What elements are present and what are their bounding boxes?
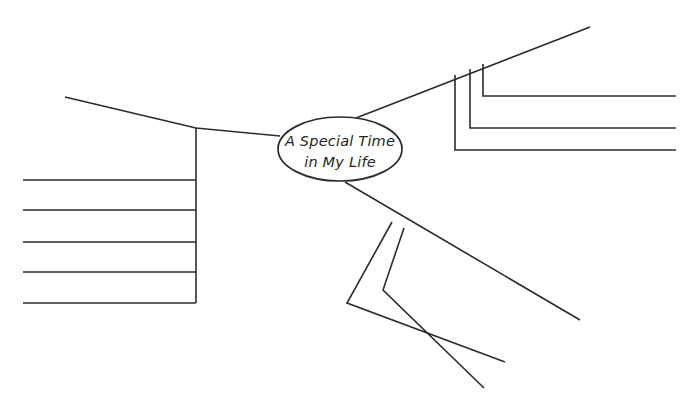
graphic-organizer-canvas: A Special Time in My Life — [0, 0, 694, 413]
top-right-bracket-3[interactable] — [455, 75, 676, 150]
top-right-branch-group[interactable] — [356, 27, 676, 150]
central-oval-group[interactable]: A Special Time in My Life — [278, 117, 402, 181]
left-branch-group[interactable] — [23, 97, 280, 303]
bottom-right-branch-group[interactable] — [345, 182, 580, 388]
central-oval-line-1: A Special Time — [284, 133, 395, 149]
bottom-right-bracket-2[interactable] — [347, 222, 505, 362]
top-right-bracket-1[interactable] — [483, 64, 676, 96]
bottom-right-branch-spine — [345, 182, 580, 320]
top-right-branch-spine — [356, 27, 590, 118]
central-oval-line-2: in My Life — [304, 154, 376, 170]
bottom-right-bracket-1[interactable] — [383, 228, 484, 388]
left-branch-spine — [65, 97, 280, 136]
top-right-bracket-2[interactable] — [470, 69, 676, 128]
central-oval[interactable] — [278, 117, 402, 181]
organizer-diagram: A Special Time in My Life — [0, 0, 694, 413]
